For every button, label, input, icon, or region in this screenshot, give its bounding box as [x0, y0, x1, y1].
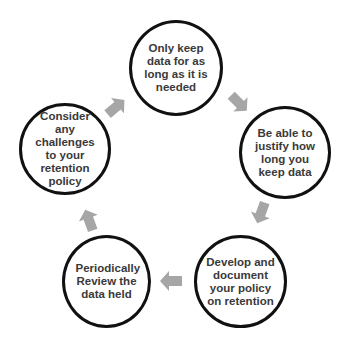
node-challenges-label: Consider any challenges to your retentio… [29, 110, 101, 188]
arrow-review-to-challenges-icon [74, 205, 104, 235]
node-develop-policy: Develop and document your policy on rete… [194, 235, 287, 328]
node-justify-label: Be able to justify how long you keep dat… [252, 127, 318, 179]
node-develop-policy-label: Develop and document your policy on rete… [204, 256, 278, 308]
node-justify: Be able to justify how long you keep dat… [239, 106, 331, 199]
arrow-justify-to-develop-icon [246, 198, 276, 228]
node-review-label: Periodically Review the data held [76, 262, 138, 301]
arrow-keep-to-justify-icon [224, 88, 254, 118]
node-keep-data-label: Only keep data for as long as it is need… [141, 42, 211, 94]
node-challenges: Consider any challenges to your retentio… [19, 103, 111, 195]
retention-cycle-diagram: Only keep data for as long as it is need… [0, 0, 342, 346]
arrow-challenges-to-keep-icon [101, 92, 131, 122]
node-keep-data: Only keep data for as long as it is need… [129, 20, 223, 116]
arrow-develop-to-review-icon [156, 266, 186, 296]
node-review: Periodically Review the data held [62, 235, 151, 328]
